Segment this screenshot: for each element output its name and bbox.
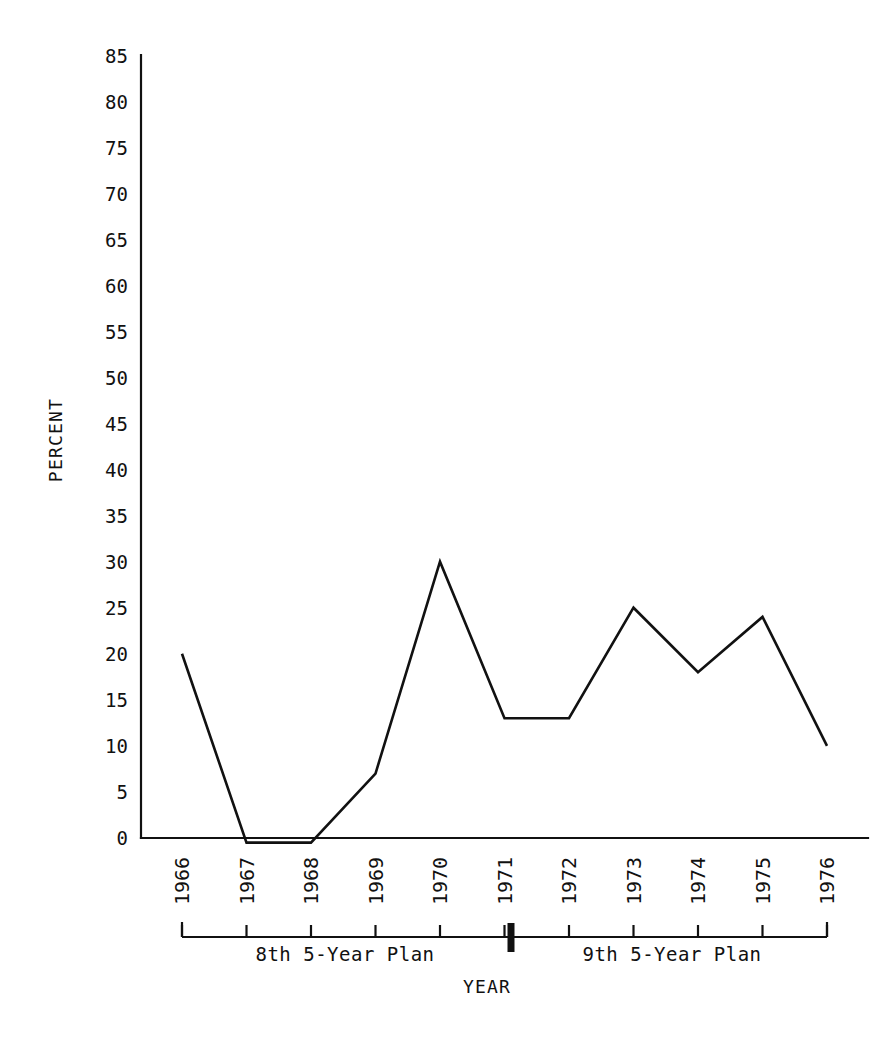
y-tick-label: 40 bbox=[105, 459, 128, 481]
plan-bracket-ticks bbox=[182, 925, 827, 937]
line-chart-figure: 85 80 75 70 65 60 55 50 45 40 35 30 25 2… bbox=[0, 0, 895, 1043]
x-axis-year-label: 1970 bbox=[428, 857, 452, 905]
chart-canvas: 85 80 75 70 65 60 55 50 45 40 35 30 25 2… bbox=[0, 0, 895, 1043]
y-tick-label: 50 bbox=[105, 367, 128, 389]
x-axis-year-label: 1974 bbox=[686, 857, 710, 905]
y-tick-label: 0 bbox=[117, 827, 128, 849]
x-axis-year-label: 1967 bbox=[235, 857, 259, 905]
y-tick-label: 30 bbox=[105, 551, 128, 573]
x-axis-year-label: 1975 bbox=[751, 857, 775, 905]
y-tick-label: 80 bbox=[105, 91, 128, 113]
plan-label-8th: 8th 5-Year Plan bbox=[255, 943, 434, 965]
y-tick-label: 15 bbox=[105, 689, 128, 711]
x-axis-year-label: 1973 bbox=[622, 857, 646, 905]
y-tick-label: 25 bbox=[105, 597, 128, 619]
y-axis-tick-labels: 85 80 75 70 65 60 55 50 45 40 35 30 25 2… bbox=[105, 45, 128, 849]
y-tick-label: 65 bbox=[105, 229, 128, 251]
x-axis-year-label: 1969 bbox=[364, 857, 388, 905]
y-axis-title: PERCENT bbox=[45, 398, 66, 482]
x-axis-year-label: 1972 bbox=[557, 857, 581, 905]
x-axis-year-label: 1976 bbox=[815, 857, 839, 905]
x-axis-title: YEAR bbox=[463, 976, 511, 997]
plan-label-9th: 9th 5-Year Plan bbox=[582, 943, 761, 965]
y-tick-label: 60 bbox=[105, 275, 128, 297]
x-axis-year-label: 1968 bbox=[299, 857, 323, 905]
y-tick-label: 35 bbox=[105, 505, 128, 527]
y-tick-label: 70 bbox=[105, 183, 128, 205]
data-series-line bbox=[182, 562, 827, 843]
y-tick-label: 85 bbox=[105, 45, 128, 67]
y-tick-label: 10 bbox=[105, 735, 128, 757]
y-tick-label: 55 bbox=[105, 321, 128, 343]
y-tick-label: 45 bbox=[105, 413, 128, 435]
y-tick-label: 20 bbox=[105, 643, 128, 665]
x-axis-year-label: 1966 bbox=[170, 857, 194, 905]
y-tick-label: 75 bbox=[105, 137, 128, 159]
y-tick-label: 5 bbox=[117, 781, 128, 803]
x-axis-year-labels: 1966196719681969197019711972197319741975… bbox=[170, 857, 839, 905]
x-axis-year-label: 1971 bbox=[493, 857, 517, 905]
